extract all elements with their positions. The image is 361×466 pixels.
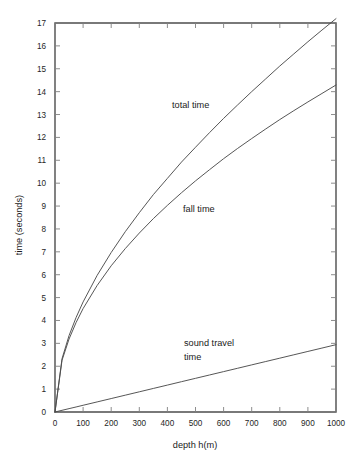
sound-travel-time-label-line-2: time: [184, 352, 201, 362]
x-tick-label-600: 600: [217, 419, 231, 428]
y-tick-label-7: 7: [41, 248, 46, 257]
x-tick-label-300: 300: [132, 419, 146, 428]
y-tick-label-10: 10: [37, 179, 47, 188]
y-tick-label-15: 15: [37, 65, 47, 74]
y-tick-label-14: 14: [37, 88, 47, 97]
x-tick-label-400: 400: [161, 419, 175, 428]
x-tick-label-100: 100: [76, 419, 90, 428]
y-tick-label-3: 3: [41, 339, 46, 348]
y-tick-label-17: 17: [37, 19, 47, 28]
y-tick-label-2: 2: [41, 362, 46, 371]
x-tick-label-500: 500: [189, 419, 203, 428]
x-tick-label-0: 0: [53, 419, 58, 428]
y-tick-label-12: 12: [37, 133, 47, 142]
y-tick-label-11: 11: [38, 156, 47, 165]
x-tick-label-200: 200: [104, 419, 118, 428]
sound-travel-time-label-line-1: sound travel: [184, 338, 234, 348]
y-axis-title: time (seconds): [14, 195, 24, 255]
x-tick-label-700: 700: [245, 419, 259, 428]
x-tick-label-800: 800: [273, 419, 287, 428]
series-fall-time: [55, 85, 336, 412]
y-tick-label-4: 4: [41, 316, 46, 325]
y-tick-label-6: 6: [41, 271, 46, 280]
x-tick-label-900: 900: [301, 419, 315, 428]
y-axis-tick-labels: 01234567891011121314151617: [37, 19, 47, 417]
total-time-label: total time: [172, 100, 209, 110]
y-tick-label-8: 8: [41, 225, 46, 234]
time-vs-depth-line-chart: 01234567891011121314151617 0100200300400…: [0, 0, 361, 466]
y-tick-label-13: 13: [37, 111, 47, 120]
y-tick-label-5: 5: [41, 294, 46, 303]
y-tick-label-0: 0: [41, 408, 46, 417]
y-tick-label-1: 1: [41, 385, 46, 394]
y-tick-label-9: 9: [41, 202, 46, 211]
y-tick-label-16: 16: [37, 42, 47, 51]
x-axis-title: depth h(m): [173, 440, 217, 450]
chart-figure: 01234567891011121314151617 0100200300400…: [0, 0, 361, 466]
fall-time-label: fall time: [183, 204, 215, 214]
x-tick-label-1000: 1000: [327, 419, 346, 428]
x-axis-tick-labels: 01002003004005006007008009001000: [53, 419, 346, 428]
